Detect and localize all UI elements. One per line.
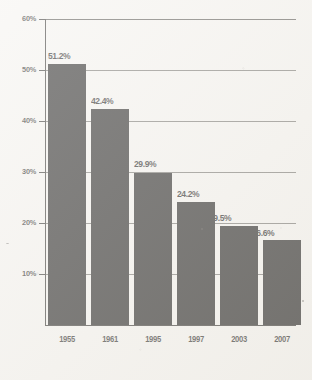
x-tick-label-1995: 1995 — [136, 334, 170, 344]
bar-value-1961: 42.4% — [91, 95, 113, 106]
y-tick-label-50: 50% — [8, 65, 36, 74]
y-axis-line — [45, 19, 46, 326]
y-tick-label-30: 30% — [8, 167, 36, 176]
y-tick-label-40: 40% — [8, 116, 36, 125]
x-tick-label-1955: 1955 — [50, 334, 84, 344]
bar-1961 — [91, 109, 129, 325]
scan-fleck-left — [6, 243, 9, 244]
y-tick-mark-20 — [39, 223, 45, 224]
bar-2003 — [220, 226, 258, 326]
scan-fleck-right — [302, 300, 304, 302]
plot-area — [45, 19, 296, 325]
bar-value-2003: 19.5% — [209, 212, 231, 223]
bar-1955 — [48, 64, 86, 325]
y-tick-label-20: 20% — [8, 218, 36, 227]
bar-value-1997: 24.2% — [177, 188, 199, 199]
bar-value-2007: 16.6% — [252, 227, 274, 238]
x-tick-label-1997: 1997 — [179, 334, 213, 344]
y-tick-mark-50 — [39, 70, 45, 71]
bar-value-1955: 51.2% — [48, 50, 70, 61]
y-tick-mark-10 — [39, 274, 45, 275]
bar-value-1995: 29.9% — [134, 158, 156, 169]
y-tick-label-60: 60% — [8, 14, 36, 23]
scan-speckle-artifact — [201, 228, 203, 230]
bar-2007 — [263, 240, 301, 325]
gridline-60 — [45, 19, 296, 20]
x-axis-line — [45, 325, 296, 326]
y-tick-mark-40 — [39, 121, 45, 122]
y-tick-label-10: 10% — [8, 269, 36, 278]
y-tick-mark-30 — [39, 172, 45, 173]
bar-1995 — [134, 173, 172, 326]
y-tick-mark-60 — [39, 19, 45, 20]
x-tick-label-1961: 1961 — [93, 334, 127, 344]
x-tick-label-2007: 2007 — [265, 334, 299, 344]
x-tick-label-2003: 2003 — [222, 334, 256, 344]
bar-chart-figure: 60% 50% 40% 30% 20% 10% 51.2% 42.4% 29.9… — [0, 0, 312, 380]
